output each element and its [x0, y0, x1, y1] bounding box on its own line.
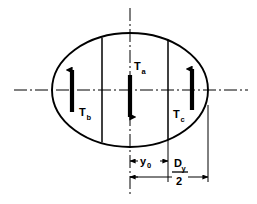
dimension-label-dy-denominator: 2: [176, 175, 182, 187]
dimension-label-dy-numerator-subscript: y: [182, 164, 187, 173]
figure-container: T b T a T c y 0 D y 2: [0, 0, 257, 204]
torque-label-c: T: [173, 108, 180, 120]
torque-label-b-subscript: b: [87, 113, 92, 122]
cross-section-diagram: T b T a T c y 0 D y 2: [0, 0, 257, 204]
torque-label-c-subscript: c: [181, 115, 185, 124]
dimension-label-y0-subscript: 0: [147, 161, 151, 170]
torque-label-b: T: [79, 106, 86, 118]
torque-label-a-subscript: a: [142, 67, 147, 76]
torque-label-a: T: [134, 60, 141, 72]
dimension-label-y0: y: [140, 155, 147, 167]
